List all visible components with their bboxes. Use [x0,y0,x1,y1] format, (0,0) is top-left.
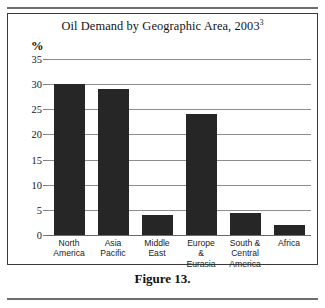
bar [186,114,217,235]
y-axis-tick-mark [43,235,47,236]
y-axis-tick-label: 25 [32,104,43,115]
bar-series [47,59,311,235]
bar [230,213,261,235]
bar [98,89,129,235]
y-axis-tick-label: 10 [32,179,43,190]
figure-page: Oil Demand by Geographic Area, 20033 % 0… [0,0,325,308]
x-axis-category-label: Africa [263,238,315,248]
y-axis-tick-label: 5 [37,204,42,215]
bar [142,215,173,235]
chart-frame: Oil Demand by Geographic Area, 20033 % 0… [7,13,318,265]
bar [54,84,85,235]
page-rule-bottom [7,298,318,300]
y-axis-tick-label: 30 [32,79,43,90]
chart-title: Oil Demand by Geographic Area, 20033 [8,19,317,34]
y-axis-tick-label: 20 [32,129,43,140]
page-rule-top [7,7,318,9]
chart-title-footnote-marker: 3 [260,18,264,27]
gridline: 0 [47,235,311,236]
y-axis-tick-label: 15 [32,154,43,165]
y-axis-tick-label: 35 [32,54,43,65]
y-axis-tick-label: 0 [37,230,42,241]
y-axis-label: % [31,39,44,54]
plot-area: 05101520253035 [47,59,311,235]
bar [274,225,305,235]
figure-caption: Figure 13. [0,271,325,287]
chart-title-text: Oil Demand by Geographic Area, 2003 [61,19,259,33]
